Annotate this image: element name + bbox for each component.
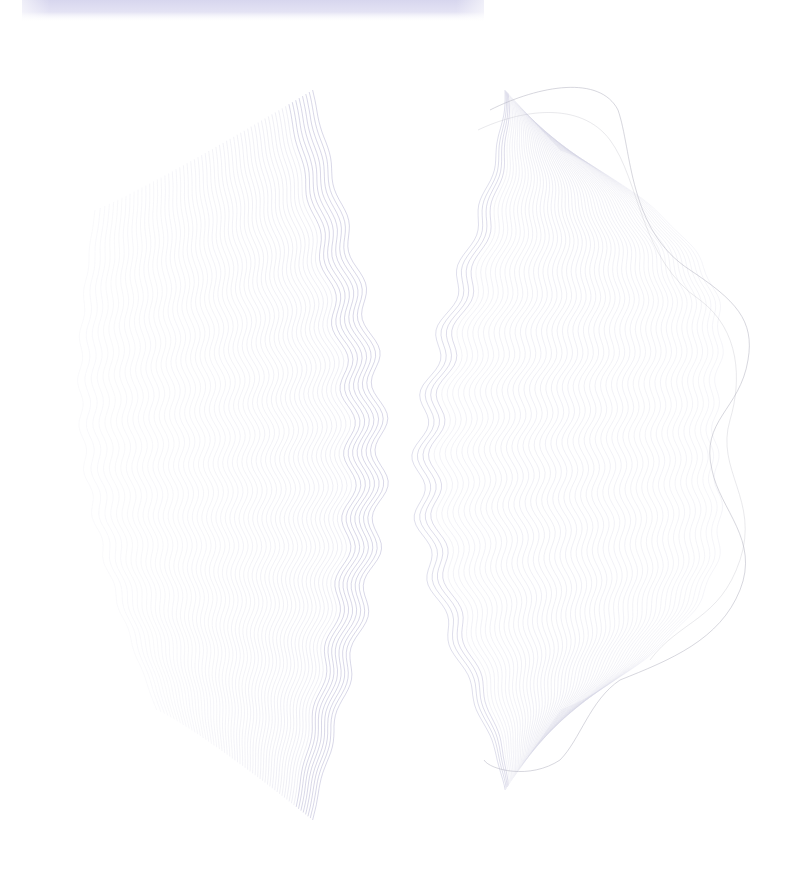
- wave-line: [114, 198, 177, 721]
- wave-line: [557, 147, 708, 715]
- wave-line: [183, 165, 222, 751]
- wave-line: [176, 169, 217, 747]
- wave-line: [506, 109, 549, 765]
- wave-line: [526, 113, 565, 759]
- wave-line: [258, 123, 314, 791]
- wave-line: [148, 184, 197, 735]
- wave-line: [417, 91, 506, 788]
- wave-line: [296, 100, 366, 811]
- wave-line: [451, 98, 517, 780]
- wave-line: [180, 167, 220, 749]
- wave-line: [153, 182, 201, 737]
- wave-line: [223, 143, 267, 772]
- wave-line-artwork: [0, 0, 808, 878]
- wave-line: [533, 120, 592, 750]
- right-wave-fan: [412, 90, 723, 790]
- wave-line: [531, 118, 583, 753]
- wave-line: [212, 149, 252, 766]
- wave-line: [261, 121, 319, 793]
- wave-line: [165, 175, 209, 741]
- wave-line: [434, 94, 511, 784]
- wave-line: [501, 108, 545, 767]
- wave-line: [412, 90, 505, 790]
- wave-line: [479, 103, 532, 772]
- wave-line: [255, 125, 310, 789]
- left-wave-fan: [78, 90, 389, 820]
- wave-line: [172, 171, 214, 745]
- wave-line: [313, 90, 389, 820]
- wave-line: [440, 96, 513, 783]
- wave-line: [282, 108, 347, 803]
- wave-line: [445, 97, 514, 781]
- wave-line: [309, 92, 383, 818]
- wave-line: [78, 210, 157, 710]
- wave-line: [542, 130, 635, 737]
- wave-line: [468, 101, 526, 775]
